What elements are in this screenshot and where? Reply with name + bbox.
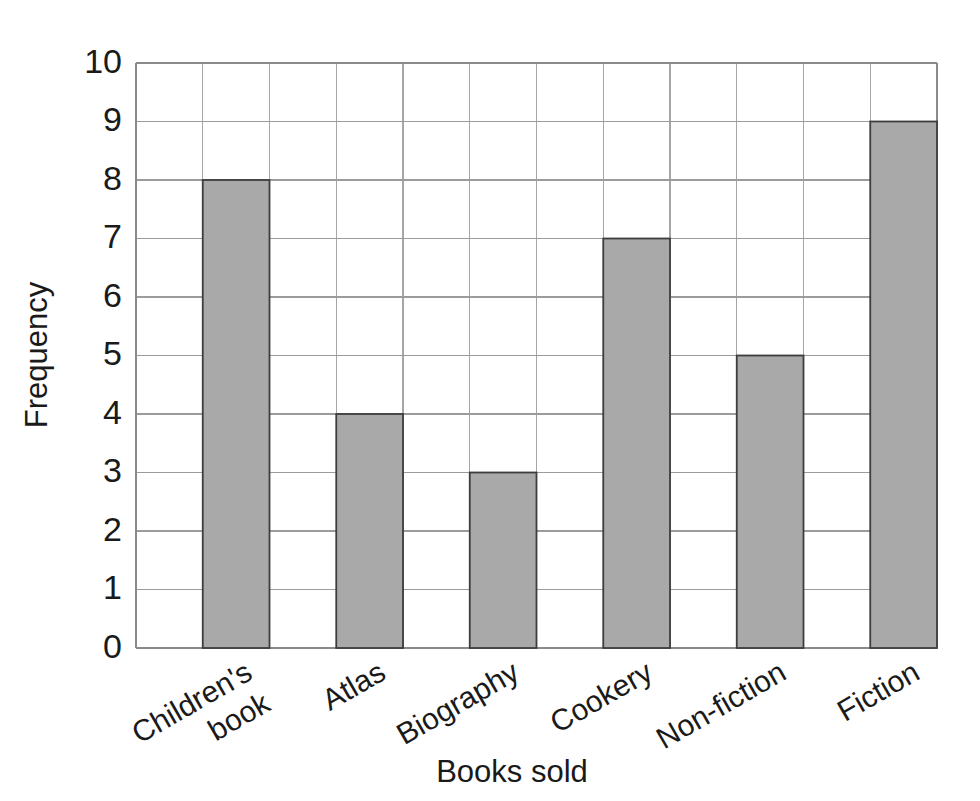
chart-container: 012345678910 Children'sbookAtlasBiograph… [0,0,980,801]
y-tick-label: 2 [103,510,122,548]
bar-fiction [870,122,937,649]
y-tick-label: 7 [103,217,122,255]
y-tick-label: 10 [84,42,122,80]
y-tick-label: 1 [103,568,122,606]
y-tick-label: 0 [103,627,122,665]
y-axis-title: Frequency [19,281,54,428]
y-tick-label: 8 [103,159,122,197]
bar-chart: 012345678910 Children'sbookAtlasBiograph… [0,0,980,801]
bar-biography [470,473,537,649]
bar-atlas [336,414,403,648]
bar-children-s-book [203,180,270,648]
y-tick-label: 6 [103,276,122,314]
y-tick-label: 5 [103,334,122,372]
bar-non-fiction [737,356,804,649]
y-tick-label: 3 [103,451,122,489]
y-tick-label: 9 [103,100,122,138]
bar-cookery [603,239,670,649]
y-tick-label: 4 [103,393,122,431]
x-axis-title: Books sold [436,754,588,789]
